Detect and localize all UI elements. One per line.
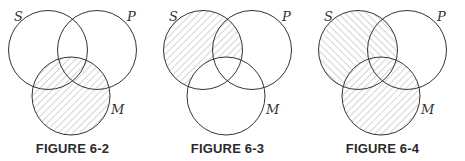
- label-m: M: [266, 103, 279, 116]
- label-m: M: [111, 103, 124, 116]
- label-s: S: [14, 10, 23, 23]
- venn-diagram: [155, 0, 310, 161]
- label-p: P: [282, 10, 291, 23]
- label-s: S: [169, 10, 178, 23]
- label-m: M: [421, 103, 434, 116]
- label-p: P: [437, 10, 446, 23]
- figure-caption: FIGURE 6-3: [155, 141, 300, 156]
- figure-6-4: S P M FIGURE 6-4: [310, 0, 465, 161]
- label-s: S: [324, 10, 333, 23]
- venn-diagram: [0, 0, 155, 161]
- figure-caption: FIGURE 6-2: [0, 141, 145, 156]
- figure-6-3: S P M FIGURE 6-3: [155, 0, 310, 161]
- venn-diagram: [310, 0, 465, 161]
- figure-caption: FIGURE 6-4: [310, 141, 455, 156]
- label-p: P: [127, 10, 136, 23]
- figure-6-2: S P M FIGURE 6-2: [0, 0, 155, 161]
